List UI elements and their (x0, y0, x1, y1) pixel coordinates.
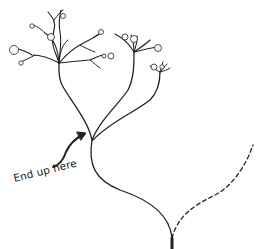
blossom (155, 45, 162, 52)
blossom (48, 34, 55, 41)
annotation-arrow-head (77, 132, 86, 140)
blossom (61, 14, 66, 19)
blossom (160, 65, 164, 69)
blossom (19, 61, 23, 65)
blossom (30, 24, 34, 28)
blossom (102, 54, 106, 58)
dashed-alternative-path (172, 145, 253, 238)
right-branch (93, 72, 160, 140)
blossom (99, 30, 104, 35)
blossom (10, 46, 19, 55)
blossom (122, 34, 128, 40)
blossom (151, 64, 157, 70)
branching-tree-diagram (0, 0, 257, 249)
blossom (131, 36, 138, 43)
middle-branch (92, 52, 134, 140)
blossom (108, 53, 114, 59)
left-branch (59, 63, 92, 140)
main-stem (91, 140, 172, 238)
